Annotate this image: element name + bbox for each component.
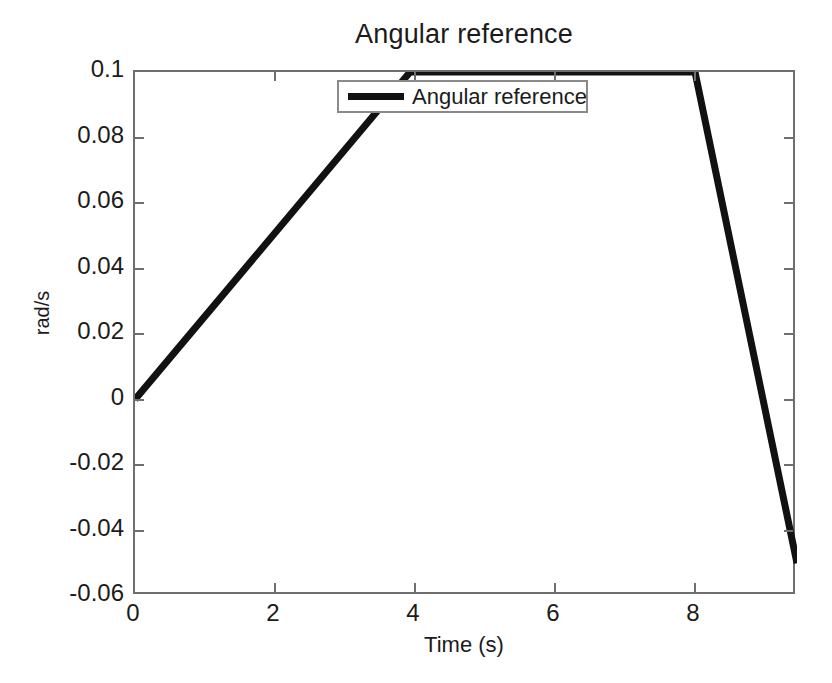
y-tick-mark (135, 333, 144, 335)
y-tick-label: -0.02 (0, 449, 124, 475)
y-tick-mark (135, 530, 144, 532)
chart-title: Angular reference (133, 18, 795, 50)
y-tick-mark (135, 399, 144, 401)
x-tick-mark (274, 583, 276, 592)
legend-entry-label: Angular reference (412, 85, 587, 109)
x-tick-mark (274, 72, 276, 81)
x-tick-label: 6 (513, 600, 593, 626)
y-tick-label: 0.06 (0, 187, 124, 213)
y-tick-mark (135, 202, 144, 204)
x-tick-label: 4 (373, 600, 453, 626)
y-tick-mark (784, 399, 793, 401)
x-tick-mark (554, 583, 556, 592)
y-tick-mark (135, 464, 144, 466)
y-tick-label: 0.1 (0, 56, 124, 82)
y-tick-mark (135, 137, 144, 139)
x-tick-label: 0 (93, 600, 173, 626)
x-tick-mark (694, 72, 696, 81)
y-tick-mark (784, 202, 793, 204)
y-tick-label: 0.08 (0, 122, 124, 148)
y-tick-mark (784, 530, 793, 532)
y-tick-label: 0.04 (0, 253, 124, 279)
data-line-svg (135, 72, 797, 596)
y-tick-label: 0 (0, 384, 124, 410)
y-tick-mark (135, 268, 144, 270)
y-tick-label: -0.04 (0, 515, 124, 541)
plot-area (133, 70, 795, 594)
figure-canvas: Angular reference rad/s Time (s) 0.10.08… (0, 0, 832, 683)
x-tick-mark (414, 583, 416, 592)
legend-line-swatch (348, 93, 404, 100)
x-tick-mark (694, 583, 696, 592)
y-tick-mark (784, 333, 793, 335)
y-tick-label: 0.02 (0, 318, 124, 344)
series-angular-reference-line (135, 72, 797, 563)
x-axis-label: Time (s) (133, 632, 795, 658)
x-tick-label: 8 (653, 600, 733, 626)
y-tick-mark (784, 464, 793, 466)
y-tick-mark (784, 137, 793, 139)
legend-box[interactable]: Angular reference (337, 80, 588, 113)
x-tick-label: 2 (233, 600, 313, 626)
y-tick-mark (784, 268, 793, 270)
